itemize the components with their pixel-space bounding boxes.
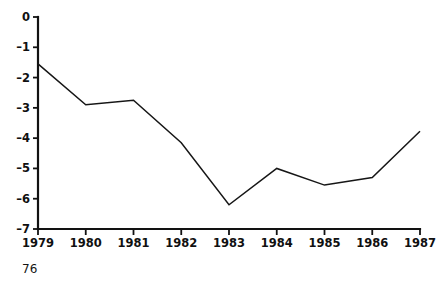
line-chart: 0–1–2–3–4–5–6–7 197919801981198219831984… xyxy=(0,0,443,291)
x-tick-label: 1986 xyxy=(356,236,388,250)
chart-figure: 0–1–2–3–4–5–6–7 197919801981198219831984… xyxy=(0,0,443,291)
y-tick-label: –4 xyxy=(16,131,30,145)
x-tick-label: 1981 xyxy=(117,236,149,250)
chart-axes xyxy=(38,17,420,229)
x-tick-label: 1983 xyxy=(213,236,245,250)
x-tick-label: 1984 xyxy=(261,236,293,250)
x-tick-label: 1982 xyxy=(165,236,197,250)
x-tick-label: 1979 xyxy=(22,236,54,250)
x-tick-label: 1980 xyxy=(70,236,102,250)
y-tick-label: –6 xyxy=(16,192,30,206)
x-tick-label: 1985 xyxy=(308,236,340,250)
y-tick-labels: 0–1–2–3–4–5–6–7 xyxy=(16,10,30,236)
y-tick-label: 0 xyxy=(22,10,30,24)
x-tick-labels: 197919801981198219831984198519861987 xyxy=(22,236,436,250)
x-tick-label: 1987 xyxy=(404,236,436,250)
y-tick-label: –5 xyxy=(16,161,30,175)
page-number: 76 xyxy=(22,262,38,276)
y-tick-label: –1 xyxy=(16,40,30,54)
data-series-line xyxy=(38,64,420,205)
y-tick-label: –2 xyxy=(16,71,30,85)
y-tick-label: –7 xyxy=(16,222,30,236)
y-tick-label: –3 xyxy=(16,101,30,115)
